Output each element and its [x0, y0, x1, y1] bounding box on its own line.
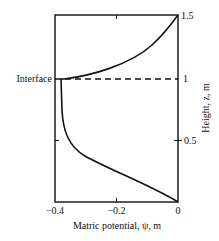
profile-curve	[61, 15, 178, 202]
x-tick-label: −0.2	[107, 205, 125, 216]
x-tick-label: −0.4	[46, 205, 64, 216]
plot-frame	[55, 15, 178, 202]
y-tick-label: 1.5	[181, 10, 194, 21]
y-tick-label: 1	[183, 73, 188, 84]
chart-canvas: Interface −0.4 −0.2 0 Matric potential, …	[0, 0, 219, 241]
y-axis-label: Height, z, m	[200, 83, 211, 133]
interface-label: Interface	[16, 73, 52, 84]
x-axis-label: Matric potential, ψ, m	[73, 220, 161, 231]
x-tick-label: 0	[176, 205, 181, 216]
y-tick-label: 0.5	[184, 135, 197, 146]
